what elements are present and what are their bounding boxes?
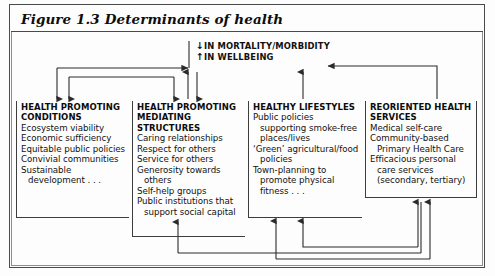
column-heading: HEALTH PROMOTING MEDIATING STRUCTURES	[137, 102, 242, 133]
determinant-list: Public policies supporting smoke-free pl…	[253, 112, 359, 196]
figure-title-bar: Figure 1.3 Determinants of health	[11, 6, 483, 32]
determinant-box-health-promoting-mediating-structures: HEALTH PROMOTING MEDIATING STRUCTURES Ca…	[132, 101, 245, 237]
outcome-line-wellbeing: ↑IN WELLBEING	[196, 52, 376, 63]
list-item: Convivial communities	[21, 154, 126, 165]
determinant-box-reoriented-health-services: REORIENTED HEALTH SERVICES Medical self-…	[365, 101, 477, 198]
determinant-list: Caring relationships Respect for others …	[137, 133, 242, 217]
determinant-list: Medical self-care Community-based Primar…	[370, 123, 473, 186]
determinant-box-healthy-lifestyles: HEALTHY LIFESTYLES Public policies suppo…	[248, 101, 362, 218]
figure-title: Figure 1.3 Determinants of health	[11, 11, 283, 27]
column-heading-line: STRUCTURES	[137, 123, 242, 133]
outcome-line-wellbeing-label: IN WELLBEING	[204, 52, 274, 62]
list-item: Economic sufficiency	[21, 133, 126, 144]
column-heading-line: REORIENTED HEALTH	[370, 102, 473, 112]
outcome-line-mortality: ↓IN MORTALITY/MORBIDITY	[196, 41, 376, 52]
column-heading-line: HEALTH PROMOTING	[137, 102, 242, 112]
list-item: Self-help groups	[137, 186, 242, 197]
list-item: Public institutions that support social …	[137, 196, 242, 217]
list-item: ‘Green’ agricultural/food policies	[253, 144, 359, 165]
column-heading-line: HEALTH PROMOTING	[21, 102, 126, 112]
list-item: Community-based Primary Health Care	[370, 133, 473, 154]
list-item: Sustainable development . . .	[21, 165, 126, 186]
list-item: Respect for others	[137, 144, 242, 155]
list-item: Town-planning to promote physical fitnes…	[253, 165, 359, 197]
column-heading-line: MEDIATING	[137, 112, 242, 122]
list-item: Equitable public policies	[21, 144, 126, 155]
list-item: Generosity towards others	[137, 165, 242, 186]
column-heading: REORIENTED HEALTH SERVICES	[370, 102, 473, 123]
list-item: Efficacious personal care services (seco…	[370, 154, 473, 186]
list-item: Medical self-care	[370, 123, 473, 134]
list-item: Public policies supporting smoke-free pl…	[253, 112, 359, 144]
outcome-line-mortality-label: IN MORTALITY/MORBIDITY	[204, 41, 330, 51]
up-arrow-icon: ↑	[196, 52, 204, 63]
column-heading-line: SERVICES	[370, 112, 473, 122]
down-arrow-icon: ↓	[196, 41, 204, 52]
column-heading-line: HEALTHY LIFESTYLES	[253, 102, 359, 112]
column-heading-line: CONDITIONS	[21, 112, 126, 122]
list-item: Ecosystem viability	[21, 123, 126, 134]
column-heading: HEALTH PROMOTING CONDITIONS	[21, 102, 126, 123]
outcome-summary: ↓IN MORTALITY/MORBIDITY ↑IN WELLBEING	[196, 41, 376, 62]
determinant-list: Ecosystem viability Economic sufficiency…	[21, 123, 126, 186]
determinant-box-health-promoting-conditions: HEALTH PROMOTING CONDITIONS Ecosystem vi…	[16, 101, 129, 218]
list-item: Caring relationships	[137, 133, 242, 144]
list-item: Service for others	[137, 154, 242, 165]
figure-panel: Figure 1.3 Determinants of health ↓IN MO…	[0, 0, 495, 276]
column-heading: HEALTHY LIFESTYLES	[253, 102, 359, 112]
